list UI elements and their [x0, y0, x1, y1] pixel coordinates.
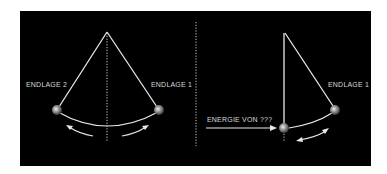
right-pendulum	[206, 33, 340, 142]
bob-endlage-2	[52, 105, 62, 115]
bob-endlage-1-right	[330, 105, 340, 115]
arrow-left-icon	[69, 127, 93, 136]
arrow-right-icon	[122, 127, 146, 136]
right-string-diagonal	[285, 33, 335, 109]
label-endlage-1-right: ENDLAGE 1	[328, 81, 369, 88]
left-swing-arc	[58, 112, 158, 126]
left-pendulum	[52, 32, 164, 142]
bob-rest	[279, 123, 289, 133]
double-arrow-icon	[299, 131, 326, 140]
label-endlage-2: ENDLAGE 2	[26, 81, 67, 88]
label-endlage-1-left: ENDLAGE 1	[151, 81, 192, 88]
left-string-2	[57, 32, 107, 110]
right-swing-arc	[289, 113, 332, 128]
label-energie-von: ENERGIE VON ???	[207, 116, 272, 123]
energy-arrow-head-icon	[270, 125, 277, 131]
double-arrow-head-left-icon	[296, 137, 303, 142]
bob-endlage-1	[154, 105, 164, 115]
left-string-1	[107, 32, 159, 110]
